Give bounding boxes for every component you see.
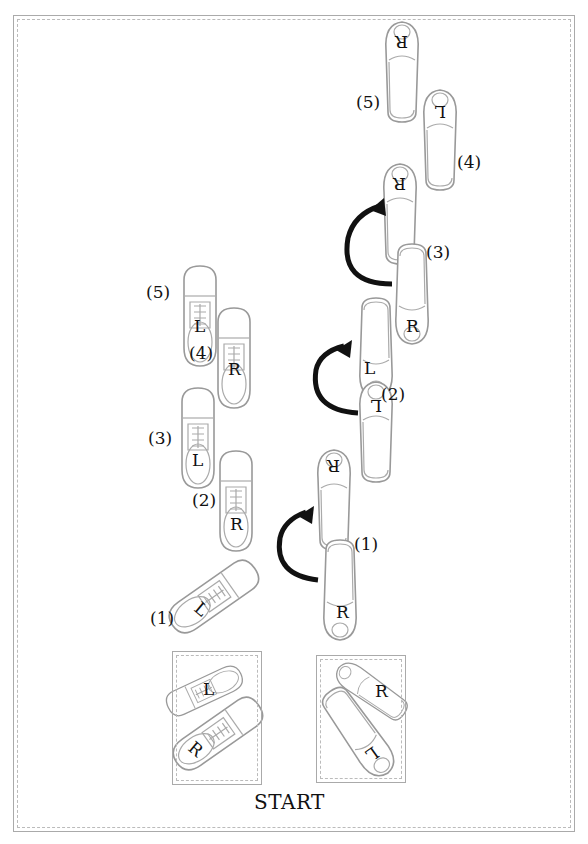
foot-letter: L	[192, 450, 203, 470]
foot-letter: L	[194, 316, 205, 336]
womens-step-label-5: (5)	[356, 92, 380, 112]
womens-step-label-4: (4)	[457, 152, 481, 172]
mens-step-2	[220, 451, 252, 551]
foot-letter: R	[392, 174, 406, 194]
mens-step-label-1: (1)	[150, 608, 174, 628]
foot-letter: L	[364, 358, 375, 378]
womens-step-1-start	[324, 540, 356, 640]
mens-step-label-3: (3)	[148, 428, 172, 448]
mens-step-4	[218, 308, 250, 408]
foot-letter: R	[326, 456, 340, 476]
foot-letter: L	[435, 102, 446, 122]
womens-step-label-3: (3)	[426, 242, 450, 262]
start-box-women	[316, 655, 406, 783]
rotation-arrow-1	[279, 506, 318, 580]
foot-letter: R	[406, 316, 420, 336]
foot-letter: R	[394, 32, 408, 52]
womens-step-label-2: (2)	[381, 384, 405, 404]
footprint-diagram: L R L R L R R L L R R L R L R R L	[0, 0, 588, 844]
mens-step-label-4: (4)	[189, 343, 213, 363]
foot-letter: R	[228, 359, 242, 379]
foot-letter: R	[230, 514, 244, 534]
mens-step-3	[182, 388, 214, 488]
rotation-arrow-2	[315, 340, 358, 413]
start-label: START	[254, 790, 325, 814]
womens-step-label-1: (1)	[354, 534, 378, 554]
mens-step-label-5: (5)	[146, 282, 170, 302]
mens-step-1	[164, 555, 264, 639]
mens-step-label-2: (2)	[192, 490, 216, 510]
start-box-men	[172, 651, 262, 785]
foot-letter: R	[336, 602, 350, 622]
